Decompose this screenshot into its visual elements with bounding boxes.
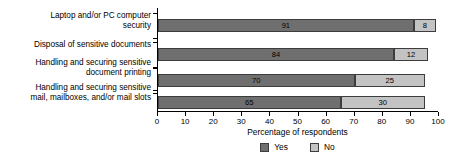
x-tick-60 [326,112,327,116]
x-ticklabel-40: 40 [257,117,281,126]
x-tick-0 [157,112,158,116]
bar-value-label-no: 8 [423,22,427,30]
bar-segment-yes[interactable]: 65 [158,96,341,109]
y-tick [153,38,157,39]
x-tick-10 [185,112,186,116]
x-ticklabel-100: 100 [426,117,450,126]
bar-row[interactable]: 918 [158,19,436,32]
x-ticklabel-80: 80 [370,117,394,126]
x-tick-100 [438,112,439,116]
x-tick-70 [354,112,355,116]
bar-segment-yes[interactable]: 84 [158,48,394,61]
x-ticklabel-20: 20 [201,117,225,126]
y-tick [153,90,157,91]
x-ticklabel-90: 90 [398,117,422,126]
bar-row[interactable]: 6530 [158,96,425,109]
category-label-0: Laptop and/or PC computer security [0,11,151,30]
x-tick-50 [298,112,299,116]
bar-row[interactable]: 7025 [158,74,425,87]
x-ticklabel-50: 50 [286,117,310,126]
bar-segment-no[interactable]: 30 [341,96,425,109]
x-axis-title: Percentage of respondents [157,127,438,137]
bar-segment-yes[interactable]: 70 [158,74,355,87]
legend-label-yes: Yes [274,142,288,152]
x-tick-80 [382,112,383,116]
x-ticklabel-30: 30 [229,117,253,126]
category-axis-labels: Laptop and/or PC computer security Dispo… [0,0,155,108]
y-tick [153,93,157,94]
bar-value-label-yes: 70 [252,77,260,85]
bar-segment-no[interactable]: 25 [355,74,425,87]
bar-row[interactable]: 8412 [158,48,428,61]
y-tick [153,68,157,69]
category-label-1: Disposal of sensitive documents [0,40,151,50]
bar-value-label-no: 30 [379,99,387,107]
x-ticklabel-0: 0 [145,117,169,126]
x-ticklabel-60: 60 [314,117,338,126]
bar-segment-no[interactable]: 12 [394,48,428,61]
legend-swatch-no [310,143,319,152]
x-tick-90 [410,112,411,116]
plot-area: 0102030405060708090100 918841270256530 [157,8,438,111]
x-tick-40 [269,112,270,116]
bar-value-label-yes: 91 [282,22,290,30]
x-tick-20 [213,112,214,116]
x-ticklabel-10: 10 [173,117,197,126]
y-tick [153,42,157,43]
chart-legend: Yes No [157,142,438,152]
bar-segment-no[interactable]: 8 [414,19,436,32]
legend-item-yes: Yes [260,142,288,152]
legend-swatch-yes [260,143,269,152]
legend-label-no: No [324,142,335,152]
category-label-3: Handling and securing sensitive mail, ma… [0,83,151,102]
bar-value-label-yes: 65 [245,99,253,107]
x-tick-30 [241,112,242,116]
y-tick [153,13,157,14]
bar-value-label-yes: 84 [272,51,280,59]
bar-chart: Laptop and/or PC computer security Dispo… [0,0,456,160]
bar-value-label-no: 25 [386,77,394,85]
category-label-2: Handling and securing sensitive document… [0,58,151,77]
x-ticklabel-70: 70 [342,117,366,126]
bar-segment-yes[interactable]: 91 [158,19,414,32]
bar-value-label-no: 12 [407,51,415,59]
legend-item-no: No [310,142,335,152]
